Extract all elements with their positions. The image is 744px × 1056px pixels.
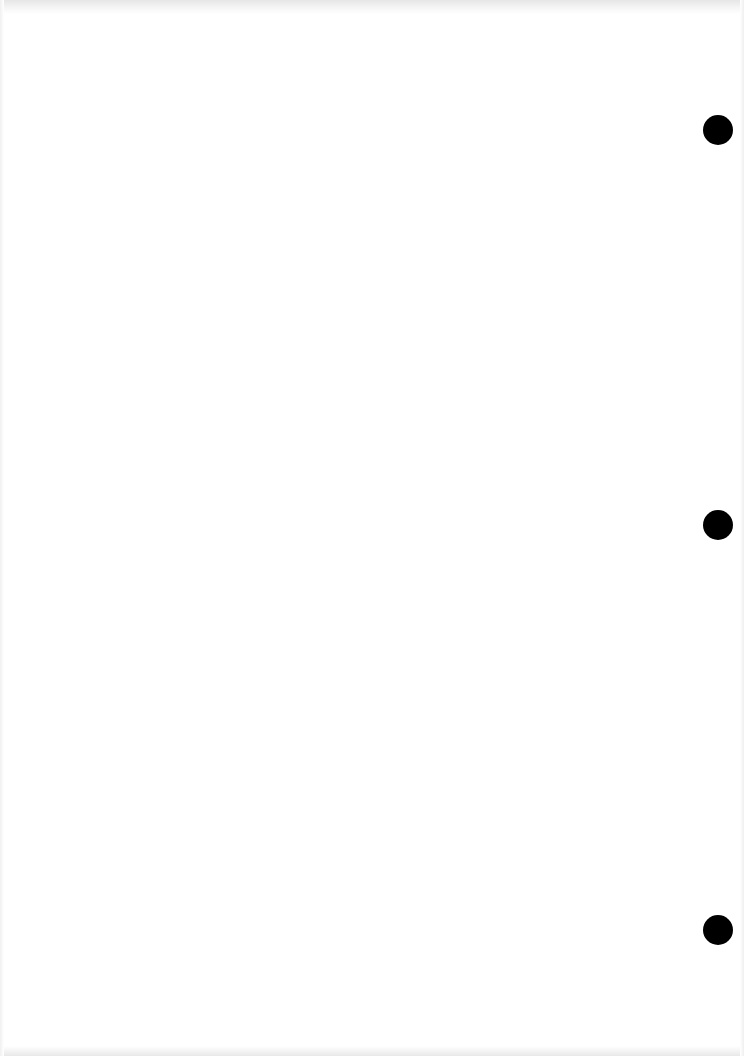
punch-hole-top: [703, 115, 733, 145]
scan-edge-bottom: [0, 1046, 744, 1056]
scan-edge-left: [0, 0, 4, 1056]
punch-hole-middle: [703, 510, 733, 540]
scan-edge-top: [0, 0, 744, 14]
punch-hole-bottom: [703, 915, 733, 945]
blank-page: [0, 0, 744, 1056]
scan-edge-right: [740, 0, 744, 1056]
